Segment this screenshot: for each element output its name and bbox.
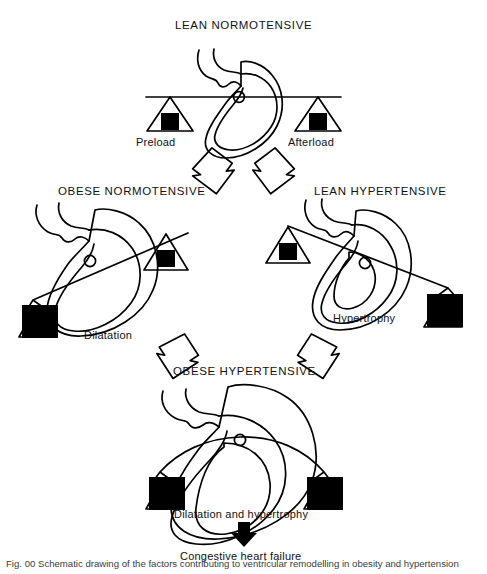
figure-caption: Fig. 00 Schematic drawing of the factors…: [6, 558, 484, 574]
weight-preload-small: [161, 113, 179, 130]
label-dilatation-and-hypertrophy: Dilatation and hypertrophy: [174, 509, 308, 520]
figure-root: LEAN NORMOTENSIVE Preload Afterload OBES…: [0, 0, 487, 574]
weight-preload-large: [22, 305, 58, 338]
balance-beam-tilted-right: [288, 226, 448, 288]
label-preload: Preload: [136, 137, 175, 148]
stage-lean-hypertensive: [266, 199, 463, 330]
weight-afterload-large: [427, 294, 463, 327]
heart-hypertrophied-icon: [305, 199, 411, 330]
stage-title-obese-normotensive: OBESE NORMOTENSIVE: [58, 186, 206, 198]
flow-arrow-to-congestive-heart-failure: [231, 522, 257, 547]
stage-obese-hypertensive: [146, 385, 343, 545]
fulcrum-preload-heavy: [19, 300, 58, 338]
weight-preload-large-2: [149, 477, 185, 510]
stage-title-lean-normotensive: LEAN NORMOTENSIVE: [175, 20, 312, 32]
heart-normal-icon: [198, 49, 283, 158]
balance-beam-sagging: [160, 437, 324, 472]
fulcrum-preload-heavy-2: [146, 472, 185, 510]
label-dilatation: Dilatation: [84, 330, 132, 341]
heart-dilated-hypertrophied-icon: [162, 385, 316, 545]
weight-afterload-large-2: [307, 477, 343, 510]
fulcrum-afterload: [295, 97, 341, 131]
stage-obese-normotensive: [19, 203, 188, 338]
stage-title-obese-hypertensive: OBESE HYPERTENSIVE: [173, 366, 316, 378]
fulcrum-afterload-heavy: [424, 288, 463, 327]
weight-afterload-small: [309, 113, 327, 130]
label-hypertrophy: Hypertrophy: [333, 313, 395, 324]
stage-title-lean-hypertensive: LEAN HYPERTENSIVE: [314, 186, 447, 198]
weight-afterload-small-2: [157, 250, 175, 267]
fulcrum-preload: [147, 97, 193, 131]
fulcrum-afterload-heavy-2: [304, 472, 343, 510]
weight-preload-small-3: [279, 243, 297, 260]
flow-arrow-to-lean-hypertensive: [250, 145, 298, 196]
diagram-canvas: [0, 0, 487, 574]
label-afterload: Afterload: [288, 137, 334, 148]
